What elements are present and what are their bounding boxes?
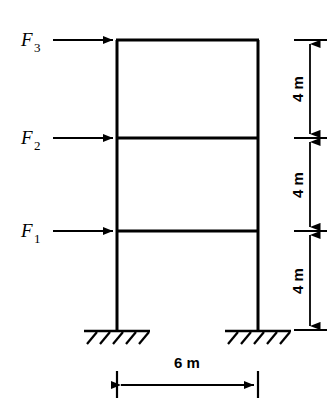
left-support-hatching xyxy=(87,332,149,344)
span-label: 6 m xyxy=(174,354,200,371)
dim-label-storey-3: 4 m xyxy=(289,76,306,102)
left-support xyxy=(84,331,150,344)
force-f3-label: F xyxy=(20,29,33,50)
dim-label-storey-2: 4 m xyxy=(289,172,306,198)
force-arrows xyxy=(53,40,113,231)
span-dimension: 6 m xyxy=(117,354,258,398)
force-labels: F 3 F 2 F 1 xyxy=(20,29,41,246)
frame-diagram: F 3 F 2 F 1 4 m 4 m 4 m 6 m xyxy=(0,0,336,403)
vertical-dimension-chain: 4 m 4 m 4 m xyxy=(289,40,327,330)
force-f2-subscript: 2 xyxy=(34,138,41,153)
dim-label-storey-1: 4 m xyxy=(289,268,306,294)
diagram-canvas: F 3 F 2 F 1 4 m 4 m 4 m 6 m xyxy=(0,0,336,403)
force-f2-label: F xyxy=(20,127,33,148)
right-support-hatching xyxy=(228,332,290,344)
force-f3-subscript: 3 xyxy=(34,40,41,55)
frame-structure xyxy=(116,40,259,330)
force-f1-label: F xyxy=(20,220,33,241)
right-support xyxy=(225,331,291,344)
force-f1-subscript: 1 xyxy=(34,231,41,246)
